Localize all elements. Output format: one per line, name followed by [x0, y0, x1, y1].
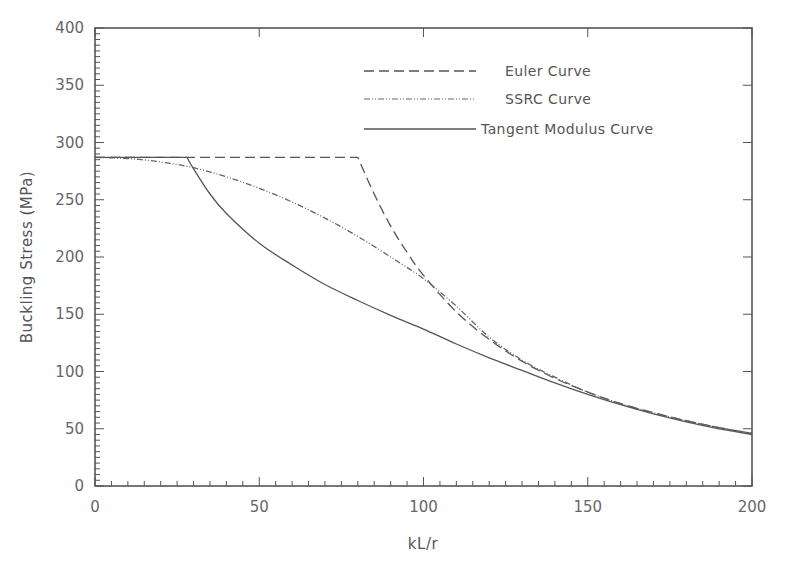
x-tick-label: 150 — [573, 498, 602, 516]
legend-label-euler: Euler Curve — [505, 63, 591, 79]
y-tick-label: 50 — [65, 420, 84, 438]
y-tick-label: 250 — [55, 191, 84, 209]
minor-ticks — [95, 28, 752, 486]
y-tick-label: 400 — [55, 19, 84, 37]
x-tick-label: 50 — [250, 498, 269, 516]
y-axis-title: Buckling Stress (MPa) — [18, 171, 36, 343]
series-ssrc-curve — [95, 157, 752, 433]
y-tick-label: 150 — [55, 305, 84, 323]
legend-label-tangent: Tangent Modulus Curve — [480, 121, 654, 137]
buckling-stress-chart: 050100150200 050100150200250300350400 kL… — [0, 0, 785, 572]
x-tick-label: 200 — [738, 498, 767, 516]
y-tick-label: 0 — [74, 477, 84, 495]
y-tick-label: 200 — [55, 248, 84, 266]
plot-frame — [95, 28, 752, 486]
x-tick-label: 100 — [409, 498, 438, 516]
y-tick-label: 100 — [55, 363, 84, 381]
series-layer — [95, 157, 752, 434]
legend-label-ssrc: SSRC Curve — [505, 91, 591, 107]
legend: Euler Curve SSRC Curve Tangent Modulus C… — [364, 63, 654, 137]
y-tick-label: 300 — [55, 134, 84, 152]
plot-border — [95, 28, 752, 486]
series-tangent-modulus-curve — [95, 157, 752, 434]
y-tick-label: 350 — [55, 76, 84, 94]
x-axis-title: kL/r — [408, 535, 439, 553]
x-tick-label: 0 — [90, 498, 100, 516]
x-tick-labels: 050100150200 — [90, 498, 766, 516]
series-euler-curve — [95, 157, 752, 433]
y-tick-labels: 050100150200250300350400 — [55, 19, 84, 495]
